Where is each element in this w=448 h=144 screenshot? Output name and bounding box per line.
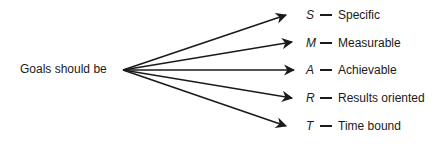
dash [320, 14, 332, 15]
item-time: T Time bound [306, 119, 401, 133]
arrow-results [123, 70, 292, 98]
item-letter: M [306, 36, 318, 50]
item-specific: S Specific [306, 8, 380, 22]
item-achievable: A Achievable [306, 63, 397, 77]
arrow-time [123, 70, 286, 126]
dash [320, 97, 332, 98]
item-letter: T [306, 119, 318, 133]
item-word: Achievable [338, 63, 397, 77]
item-word: Measurable [338, 36, 401, 50]
dash [320, 42, 332, 43]
dash [320, 69, 332, 70]
arrow-specific [123, 15, 286, 70]
item-letter: R [306, 91, 318, 105]
arrow-measurable [123, 42, 292, 70]
item-word: Specific [338, 8, 380, 22]
item-results: R Results oriented [306, 91, 425, 105]
item-letter: S [306, 8, 318, 22]
item-letter: A [306, 63, 318, 77]
item-word: Time bound [338, 119, 401, 133]
dash [320, 125, 332, 126]
item-word: Results oriented [338, 91, 425, 105]
item-measurable: M Measurable [306, 36, 401, 50]
